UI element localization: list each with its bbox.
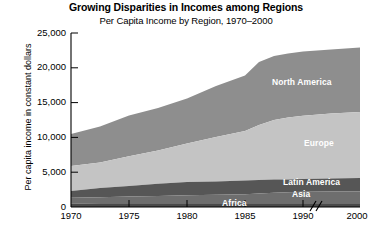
x-tick-label: 1970 [51, 210, 91, 221]
band-label-africa: Africa [222, 198, 247, 208]
x-tick-label: 1980 [167, 210, 207, 221]
band-label-latin-america: Latin America [283, 177, 340, 187]
x-tick-label: 1975 [109, 210, 149, 221]
x-tick-label: 1990 [283, 210, 323, 221]
band-label-asia: Asia [292, 189, 310, 199]
band-label-north-america: North America [272, 77, 332, 87]
x-axis-tick-labels: 1970 1975 1980 1985 1990 2000 [0, 0, 372, 232]
x-tick-label: 2000 [337, 210, 372, 221]
x-tick-label: 1985 [225, 210, 265, 221]
band-label-europe: Europe [304, 138, 334, 148]
chart-figure: Growing Disparities in Incomes among Reg… [0, 0, 372, 232]
